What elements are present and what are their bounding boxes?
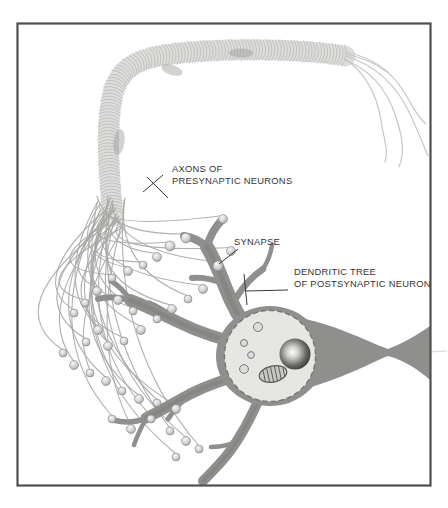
bundle-shadow-patch: [229, 49, 253, 58]
synaptic-bouton: [70, 361, 79, 370]
synaptic-bouton: [165, 241, 175, 251]
synaptic-bouton: [153, 399, 161, 407]
synaptic-bouton: [195, 445, 203, 453]
presynaptic-axon-fiber: [112, 202, 218, 262]
synaptic-bouton: [147, 415, 155, 423]
synaptic-bouton: [172, 405, 181, 414]
postsynaptic-neuron-body: [216, 306, 447, 406]
synaptic-bouton: [153, 253, 162, 262]
synaptic-bouton: [219, 215, 228, 224]
synaptic-bouton: [70, 309, 78, 317]
label-synapse: SYNAPSE: [234, 236, 280, 247]
synaptic-bouton: [59, 349, 67, 357]
synaptic-bouton: [94, 326, 103, 335]
synaptic-bouton: [124, 267, 133, 276]
synaptic-bouton: [118, 387, 126, 395]
synaptic-bouton: [199, 285, 208, 294]
synaptic-bouton: [153, 315, 161, 323]
vesicle: [248, 352, 255, 359]
label-axons-line1: AXONS OF: [172, 163, 222, 174]
vesicle: [240, 365, 249, 374]
synaptic-bouton: [82, 338, 90, 346]
synaptic-bouton: [104, 342, 113, 351]
dendritic-pointer-line: [246, 290, 288, 291]
figure-page: AXONS OF PRESYNAPTIC NEURONS SYNAPSE DEN…: [0, 0, 448, 508]
synaptic-bouton: [93, 287, 102, 296]
synaptic-bouton: [81, 299, 89, 307]
synaptic-bouton: [127, 425, 136, 434]
synaptic-bouton: [137, 326, 146, 335]
axon-of-postsynaptic-neuron: [300, 318, 430, 390]
nucleolus: [280, 339, 311, 370]
synaptic-bouton: [168, 305, 177, 314]
loose-fibers: [344, 52, 428, 167]
axon-continuation-hint: [429, 351, 447, 352]
vesicle: [241, 340, 248, 347]
synaptic-bouton: [139, 261, 147, 269]
synaptic-bouton: [108, 415, 116, 423]
label-dendritic-line2: OF POSTSYNAPTIC NEURON: [294, 278, 431, 289]
axon-bundle-texture: [97, 39, 346, 215]
synaptic-bouton: [135, 395, 144, 404]
synaptic-bouton: [172, 453, 180, 461]
synaptic-bouton: [102, 377, 111, 386]
label-axons-line2: PRESYNAPTIC NEURONS: [172, 175, 292, 186]
synaptic-bouton: [86, 369, 94, 377]
synaptic-bouton: [120, 337, 128, 345]
synaptic-bouton: [184, 295, 192, 303]
synaptic-bouton: [181, 233, 191, 243]
vesicle: [254, 323, 263, 332]
synaptic-bouton: [166, 427, 174, 435]
synaptic-bouton: [129, 307, 137, 315]
presynaptic-fibers: [38, 196, 231, 454]
label-dendritic-line1: DENDRITIC TREE: [294, 266, 376, 277]
synaptic-bouton: [114, 296, 123, 305]
synaptic-bouton: [108, 274, 116, 282]
neuron-diagram: AXONS OF PRESYNAPTIC NEURONS SYNAPSE DEN…: [0, 0, 448, 508]
synaptic-bouton: [182, 437, 191, 446]
